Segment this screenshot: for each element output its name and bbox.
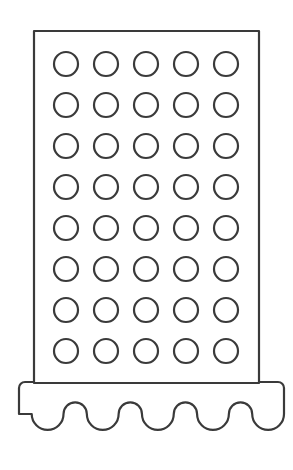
grater-hole: [54, 52, 78, 76]
grater-hole: [94, 339, 118, 363]
grater-hole: [134, 339, 158, 363]
grater-hole: [174, 93, 198, 117]
grater-outline: [19, 31, 284, 430]
grater-hole: [94, 93, 118, 117]
grater-hole: [94, 216, 118, 240]
grater-hole: [94, 298, 118, 322]
grater-hole: [134, 257, 158, 281]
grater-hole: [54, 134, 78, 158]
grater-hole: [54, 257, 78, 281]
grater-hole: [134, 298, 158, 322]
grater-hole: [214, 298, 238, 322]
grater-hole: [214, 216, 238, 240]
grater-hole: [54, 339, 78, 363]
grater-body: [34, 31, 259, 383]
grater-hole: [214, 52, 238, 76]
grater-hole: [94, 257, 118, 281]
grater-hole: [94, 175, 118, 199]
grater-hole: [54, 216, 78, 240]
grater-hole: [94, 52, 118, 76]
grater-hole: [54, 175, 78, 199]
grater-hole: [174, 298, 198, 322]
drawing-canvas: [0, 0, 293, 470]
grater-hole: [174, 339, 198, 363]
grater-hole: [54, 93, 78, 117]
grater-hole: [134, 216, 158, 240]
grater-illustration: [0, 0, 293, 470]
grater-hole: [214, 175, 238, 199]
grater-hole: [174, 257, 198, 281]
grater-hole: [54, 298, 78, 322]
grater-hole: [134, 175, 158, 199]
grater-hole: [174, 175, 198, 199]
grater-hole: [174, 216, 198, 240]
grater-hole: [214, 257, 238, 281]
grater-hole: [94, 134, 118, 158]
grater-hole: [174, 52, 198, 76]
grater-hole: [134, 134, 158, 158]
grater-hole: [134, 52, 158, 76]
grater-hole: [214, 93, 238, 117]
grater-hole: [174, 134, 198, 158]
grater-hole: [214, 134, 238, 158]
grater-hole: [134, 93, 158, 117]
grater-hole: [214, 339, 238, 363]
